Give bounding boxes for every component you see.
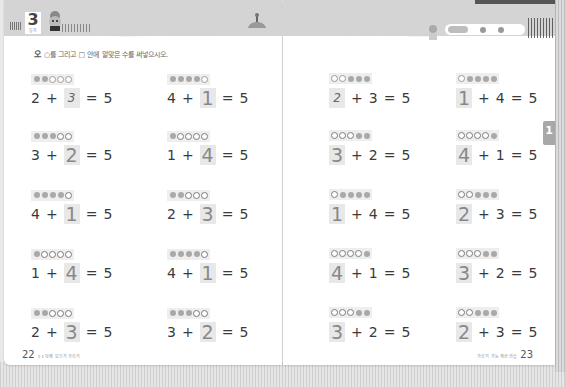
dot-counter[interactable]: [456, 307, 499, 318]
dot-counter[interactable]: [31, 249, 74, 260]
filled-circle-icon[interactable]: [356, 133, 362, 139]
filled-circle-icon[interactable]: [58, 192, 64, 198]
filled-circle-icon[interactable]: [356, 192, 362, 198]
filled-circle-icon[interactable]: [348, 192, 354, 198]
empty-circle-icon[interactable]: [185, 192, 192, 199]
filled-circle-icon[interactable]: [364, 251, 370, 257]
empty-circle-icon[interactable]: [458, 250, 465, 257]
empty-circle-icon[interactable]: [49, 76, 56, 83]
empty-circle-icon[interactable]: [193, 310, 200, 317]
empty-circle-icon[interactable]: [65, 310, 72, 317]
filled-circle-icon[interactable]: [42, 133, 48, 139]
dot-counter[interactable]: [329, 248, 372, 259]
empty-circle-icon[interactable]: [347, 250, 354, 257]
empty-circle-icon[interactable]: [41, 251, 48, 258]
filled-circle-icon[interactable]: [170, 310, 176, 316]
empty-circle-icon[interactable]: [331, 250, 338, 257]
empty-circle-icon[interactable]: [49, 310, 56, 317]
answer-box[interactable]: 4: [64, 263, 80, 283]
answer-box[interactable]: 2: [456, 204, 472, 224]
answer-box[interactable]: 3: [64, 88, 80, 108]
filled-circle-icon[interactable]: [364, 76, 370, 82]
empty-circle-icon[interactable]: [339, 75, 346, 82]
dot-counter[interactable]: [167, 308, 210, 319]
empty-circle-icon[interactable]: [185, 133, 192, 140]
filled-circle-icon[interactable]: [178, 251, 184, 257]
filled-circle-icon[interactable]: [467, 76, 473, 82]
empty-circle-icon[interactable]: [482, 132, 489, 139]
answer-box[interactable]: 1: [329, 204, 345, 224]
dot-counter[interactable]: [31, 131, 74, 142]
empty-circle-icon[interactable]: [466, 250, 473, 257]
filled-circle-icon[interactable]: [34, 251, 40, 257]
empty-circle-icon[interactable]: [201, 133, 208, 140]
empty-circle-icon[interactable]: [49, 251, 56, 258]
dot-counter[interactable]: [329, 307, 372, 318]
empty-circle-icon[interactable]: [331, 132, 338, 139]
answer-box[interactable]: 3: [64, 322, 80, 342]
empty-circle-icon[interactable]: [201, 76, 208, 83]
dot-counter[interactable]: [167, 74, 210, 85]
dot-counter[interactable]: [456, 130, 499, 141]
filled-circle-icon[interactable]: [475, 192, 481, 198]
answer-box[interactable]: 2: [200, 322, 216, 342]
empty-circle-icon[interactable]: [339, 132, 346, 139]
answer-box[interactable]: 1: [64, 204, 80, 224]
filled-circle-icon[interactable]: [170, 76, 176, 82]
empty-circle-icon[interactable]: [57, 251, 64, 258]
filled-circle-icon[interactable]: [491, 192, 497, 198]
dot-counter[interactable]: [167, 131, 210, 142]
filled-circle-icon[interactable]: [483, 76, 489, 82]
empty-circle-icon[interactable]: [466, 132, 473, 139]
answer-box[interactable]: 2: [64, 145, 80, 165]
dot-counter[interactable]: [329, 130, 372, 141]
filled-circle-icon[interactable]: [178, 310, 184, 316]
filled-circle-icon[interactable]: [364, 192, 370, 198]
filled-circle-icon[interactable]: [356, 76, 362, 82]
answer-box[interactable]: 4: [200, 145, 216, 165]
filled-circle-icon[interactable]: [178, 192, 184, 198]
filled-circle-icon[interactable]: [186, 251, 192, 257]
filled-circle-icon[interactable]: [50, 133, 56, 139]
dot-counter[interactable]: [456, 73, 499, 84]
filled-circle-icon[interactable]: [491, 310, 497, 316]
filled-circle-icon[interactable]: [178, 76, 184, 82]
empty-circle-icon[interactable]: [65, 192, 72, 199]
dot-counter[interactable]: [31, 74, 74, 85]
answer-box[interactable]: 4: [329, 263, 345, 283]
filled-circle-icon[interactable]: [34, 133, 40, 139]
empty-circle-icon[interactable]: [458, 191, 465, 198]
empty-circle-icon[interactable]: [193, 192, 200, 199]
empty-circle-icon[interactable]: [474, 132, 481, 139]
empty-circle-icon[interactable]: [339, 250, 346, 257]
empty-circle-icon[interactable]: [466, 309, 473, 316]
filled-circle-icon[interactable]: [348, 76, 354, 82]
dot-counter[interactable]: [329, 189, 372, 200]
filled-circle-icon[interactable]: [491, 76, 497, 82]
dot-counter[interactable]: [329, 73, 372, 84]
filled-circle-icon[interactable]: [170, 251, 176, 257]
filled-circle-icon[interactable]: [186, 310, 192, 316]
dot-counter[interactable]: [31, 308, 74, 319]
empty-circle-icon[interactable]: [57, 310, 64, 317]
dot-counter[interactable]: [456, 248, 499, 259]
answer-box[interactable]: 2: [456, 322, 472, 342]
filled-circle-icon[interactable]: [170, 133, 176, 139]
answer-box[interactable]: 3: [200, 204, 216, 224]
answer-box[interactable]: 1: [456, 88, 472, 108]
filled-circle-icon[interactable]: [170, 192, 176, 198]
empty-circle-icon[interactable]: [347, 309, 354, 316]
empty-circle-icon[interactable]: [339, 309, 346, 316]
filled-circle-icon[interactable]: [364, 133, 370, 139]
empty-circle-icon[interactable]: [57, 133, 64, 140]
filled-circle-icon[interactable]: [483, 192, 489, 198]
empty-circle-icon[interactable]: [65, 251, 72, 258]
filled-circle-icon[interactable]: [194, 76, 200, 82]
empty-circle-icon[interactable]: [331, 75, 338, 82]
answer-box[interactable]: 4: [456, 145, 472, 165]
filled-circle-icon[interactable]: [491, 133, 497, 139]
filled-circle-icon[interactable]: [483, 310, 489, 316]
filled-circle-icon[interactable]: [475, 310, 481, 316]
answer-box[interactable]: 2: [329, 88, 345, 108]
filled-circle-icon[interactable]: [356, 310, 362, 316]
